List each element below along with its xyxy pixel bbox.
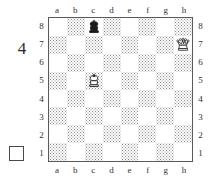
square-h7[interactable] <box>174 36 192 54</box>
square-h1[interactable] <box>174 143 192 161</box>
square-a7[interactable] <box>49 36 67 54</box>
file-label-e: e <box>121 4 139 16</box>
rank-labels-left: 87654321 <box>36 17 47 162</box>
rank-label-4: 4 <box>195 90 206 108</box>
square-g4[interactable] <box>156 90 174 108</box>
rank-label-8: 8 <box>36 17 47 35</box>
square-b4[interactable] <box>67 90 85 108</box>
square-e8[interactable] <box>121 18 139 36</box>
square-d3[interactable] <box>103 107 121 125</box>
file-label-e: e <box>121 164 139 176</box>
file-label-d: d <box>102 4 120 16</box>
file-label-b: b <box>66 4 84 16</box>
rank-label-5: 5 <box>195 71 206 89</box>
square-a6[interactable] <box>49 54 67 72</box>
square-b7[interactable] <box>67 36 85 54</box>
square-h5[interactable] <box>174 72 192 90</box>
rank-label-3: 3 <box>195 108 206 126</box>
file-label-c: c <box>84 4 102 16</box>
square-h3[interactable] <box>174 107 192 125</box>
file-label-g: g <box>157 4 175 16</box>
square-e7[interactable] <box>121 36 139 54</box>
square-b6[interactable] <box>67 54 85 72</box>
file-label-h: h <box>175 164 193 176</box>
square-f3[interactable] <box>138 107 156 125</box>
square-c4[interactable] <box>85 90 103 108</box>
file-labels-bottom: abcdefgh <box>48 164 193 176</box>
square-f4[interactable] <box>138 90 156 108</box>
square-b3[interactable] <box>67 107 85 125</box>
square-a5[interactable] <box>49 72 67 90</box>
square-b2[interactable] <box>67 125 85 143</box>
square-g5[interactable] <box>156 72 174 90</box>
file-label-a: a <box>48 164 66 176</box>
square-a1[interactable] <box>49 143 67 161</box>
square-a8[interactable] <box>49 18 67 36</box>
rank-label-2: 2 <box>195 126 206 144</box>
square-c6[interactable] <box>85 54 103 72</box>
rank-label-2: 2 <box>36 126 47 144</box>
square-e1[interactable] <box>121 143 139 161</box>
file-label-g: g <box>157 164 175 176</box>
square-c7[interactable] <box>85 36 103 54</box>
black-king-icon[interactable] <box>86 19 102 35</box>
square-c5[interactable] <box>85 72 103 90</box>
square-g3[interactable] <box>156 107 174 125</box>
chess-board[interactable] <box>48 17 193 162</box>
square-c1[interactable] <box>85 143 103 161</box>
square-g6[interactable] <box>156 54 174 72</box>
square-d8[interactable] <box>103 18 121 36</box>
board-grid <box>49 18 192 161</box>
square-h6[interactable] <box>174 54 192 72</box>
square-c8[interactable] <box>85 18 103 36</box>
square-d7[interactable] <box>103 36 121 54</box>
file-label-f: f <box>139 4 157 16</box>
square-f8[interactable] <box>138 18 156 36</box>
file-label-c: c <box>84 164 102 176</box>
square-g7[interactable] <box>156 36 174 54</box>
square-c2[interactable] <box>85 125 103 143</box>
square-e2[interactable] <box>121 125 139 143</box>
square-g8[interactable] <box>156 18 174 36</box>
file-label-a: a <box>48 4 66 16</box>
square-f7[interactable] <box>138 36 156 54</box>
square-f6[interactable] <box>138 54 156 72</box>
white-king-icon[interactable] <box>86 72 102 88</box>
square-b1[interactable] <box>67 143 85 161</box>
white-queen-icon[interactable] <box>175 36 191 52</box>
square-g1[interactable] <box>156 143 174 161</box>
square-g2[interactable] <box>156 125 174 143</box>
rank-label-4: 4 <box>36 90 47 108</box>
chess-diagram-page: 4 abcdefgh 87654321 87654321 abcdefgh <box>0 0 209 188</box>
square-f2[interactable] <box>138 125 156 143</box>
rank-label-1: 1 <box>195 144 206 162</box>
square-a2[interactable] <box>49 125 67 143</box>
square-e6[interactable] <box>121 54 139 72</box>
square-d1[interactable] <box>103 143 121 161</box>
square-h4[interactable] <box>174 90 192 108</box>
rank-label-6: 6 <box>36 53 47 71</box>
square-d2[interactable] <box>103 125 121 143</box>
square-h2[interactable] <box>174 125 192 143</box>
square-d5[interactable] <box>103 72 121 90</box>
square-d6[interactable] <box>103 54 121 72</box>
square-a4[interactable] <box>49 90 67 108</box>
square-e3[interactable] <box>121 107 139 125</box>
square-h8[interactable] <box>174 18 192 36</box>
square-f1[interactable] <box>138 143 156 161</box>
square-b8[interactable] <box>67 18 85 36</box>
side-to-move-indicator <box>9 146 24 161</box>
square-e5[interactable] <box>121 72 139 90</box>
square-f5[interactable] <box>138 72 156 90</box>
file-labels-top: abcdefgh <box>48 4 193 16</box>
square-a3[interactable] <box>49 107 67 125</box>
rank-label-1: 1 <box>36 144 47 162</box>
puzzle-number: 4 <box>10 40 34 57</box>
square-d4[interactable] <box>103 90 121 108</box>
file-label-d: d <box>102 164 120 176</box>
rank-label-6: 6 <box>195 53 206 71</box>
square-e4[interactable] <box>121 90 139 108</box>
square-c3[interactable] <box>85 107 103 125</box>
square-b5[interactable] <box>67 72 85 90</box>
file-label-b: b <box>66 164 84 176</box>
